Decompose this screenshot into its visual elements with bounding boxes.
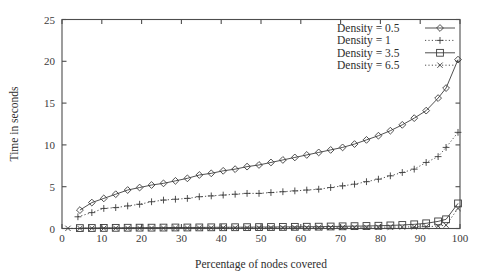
- x-axis-title: Percentage of nodes covered: [195, 258, 327, 271]
- y-tick-label-0: 0: [50, 223, 56, 235]
- y-tick-label-25: 25: [44, 14, 56, 26]
- x-tick-label-50: 50: [256, 232, 268, 244]
- x-tick-label-40: 40: [216, 232, 228, 244]
- series-1: [75, 129, 462, 220]
- axes-group: 01020304050607080901000510152025: [44, 14, 469, 245]
- chart-figure: 01020304050607080901000510152025 Density…: [0, 0, 495, 279]
- series-line-1: [78, 132, 458, 216]
- x-tick-label-100: 100: [452, 232, 469, 244]
- x-tick-label-0: 0: [59, 232, 65, 244]
- y-tick-label-10: 10: [44, 139, 56, 151]
- y-axis-title: Time in seconds: [8, 86, 20, 161]
- x-tick-label-70: 70: [335, 232, 347, 244]
- series-0: [77, 56, 462, 213]
- series-group: [65, 56, 461, 231]
- legend-label-2: Density = 3.5: [337, 47, 400, 60]
- y-tick-label-5: 5: [50, 181, 56, 193]
- legend-label-3: Density = 6.5: [337, 59, 400, 72]
- x-tick-label-20: 20: [136, 232, 148, 244]
- y-tick-label-20: 20: [44, 55, 56, 67]
- x-tick-label-80: 80: [375, 232, 387, 244]
- chart-plot-area: 01020304050607080901000510152025 Density…: [0, 0, 495, 279]
- x-tick-label-10: 10: [96, 232, 108, 244]
- legend-group: Density = 0.5Density = 1Density = 3.5Den…: [337, 22, 455, 72]
- axis-titles-group: Percentage of nodes coveredTime in secon…: [8, 86, 327, 271]
- legend-label-0: Density = 0.5: [337, 22, 400, 35]
- legend-label-1: Density = 1: [337, 34, 391, 47]
- x-tick-label-60: 60: [295, 232, 307, 244]
- x-tick-label-30: 30: [176, 232, 188, 244]
- y-tick-label-15: 15: [44, 97, 56, 109]
- x-tick-label-90: 90: [415, 232, 427, 244]
